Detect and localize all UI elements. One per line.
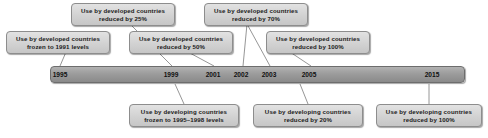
callout-developed-70: Use by developed countriesreduced by 70% xyxy=(204,3,308,26)
callout-line-2: reduced by 70% xyxy=(209,15,303,23)
callout-line-1: Use by developed countries xyxy=(11,35,105,43)
leader-developing-freeze xyxy=(175,84,184,104)
callout-line-2: reduced by 100% xyxy=(381,116,477,124)
leader-developed-50 xyxy=(188,52,214,66)
callout-line-2: frozen to 1991 levels xyxy=(11,43,105,51)
year-label-2002: 2002 xyxy=(227,69,255,81)
leader-developed-100 xyxy=(290,52,311,66)
callout-line-1: Use by developed countries xyxy=(271,35,365,43)
callout-line-1: Use by developed countries xyxy=(209,7,303,15)
year-label-2015: 2015 xyxy=(418,69,446,81)
callout-developed-25: Use by developed countriesreduced by 25% xyxy=(71,3,175,26)
callout-developing-20: Use by developing countriesreduced by 20… xyxy=(253,104,363,127)
callout-line-2: reduced by 100% xyxy=(271,43,365,51)
year-label-1995: 1995 xyxy=(46,69,74,81)
callout-developing-1995-1998-freeze: Use by developing countriesfrozen to 199… xyxy=(129,104,239,127)
callout-line-2: reduced by 50% xyxy=(134,43,228,51)
callout-line-1: Use by developing countries xyxy=(381,108,477,116)
timeline-figure: Use by developed countriesfrozen to 1991… xyxy=(0,0,488,138)
callout-developing-100: Use by developing countriesreduced by 10… xyxy=(376,104,482,127)
year-label-2003: 2003 xyxy=(255,69,283,81)
callout-developed-1991-freeze: Use by developed countriesfrozen to 1991… xyxy=(6,31,110,54)
callout-line-1: Use by developing countries xyxy=(134,108,234,116)
callout-line-1: Use by developed countries xyxy=(76,7,170,15)
callout-line-2: reduced by 25% xyxy=(76,15,170,23)
year-label-2001: 2001 xyxy=(199,69,227,81)
callout-line-1: Use by developing countries xyxy=(258,108,358,116)
leader-developed-70b xyxy=(243,24,247,66)
callout-developed-50: Use by developed countriesreduced by 50% xyxy=(129,31,233,54)
callout-line-2: reduced by 20% xyxy=(258,116,358,124)
callout-developed-100: Use by developed countriesreduced by 100… xyxy=(266,31,370,54)
callout-line-2: frozen to 1995–1998 levels xyxy=(134,116,234,124)
callout-line-1: Use by developed countries xyxy=(134,35,228,43)
year-label-2005: 2005 xyxy=(295,69,323,81)
leader-developing-20 xyxy=(300,84,308,104)
leader-developed-1991 xyxy=(60,52,66,66)
year-label-1999: 1999 xyxy=(157,69,185,81)
